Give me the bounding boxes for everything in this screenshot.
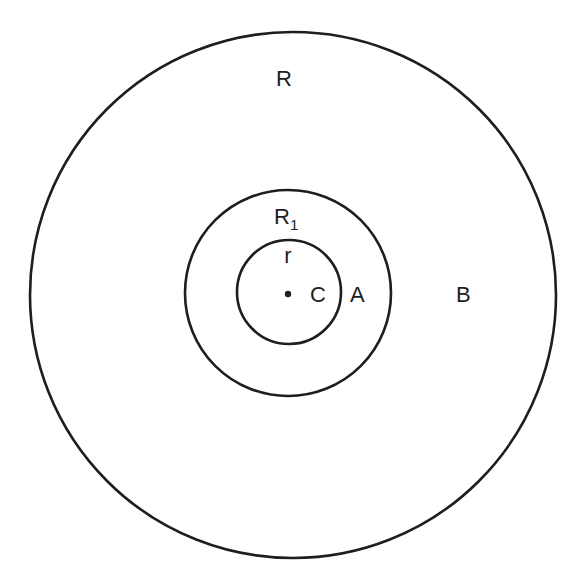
outer-radius-label: R bbox=[276, 66, 292, 91]
middle-radius-main: R bbox=[274, 204, 290, 229]
concentric-circles-diagram: R R1 r C A B bbox=[0, 0, 581, 583]
inner-radius-label: r bbox=[284, 243, 291, 268]
center-point bbox=[285, 291, 291, 297]
middle-radius-label: R1 bbox=[274, 204, 298, 233]
center-label: C bbox=[310, 282, 326, 307]
region-a-label: A bbox=[350, 282, 365, 307]
outer-circle bbox=[30, 32, 556, 558]
middle-radius-subscript: 1 bbox=[290, 216, 298, 233]
region-b-label: B bbox=[456, 282, 471, 307]
